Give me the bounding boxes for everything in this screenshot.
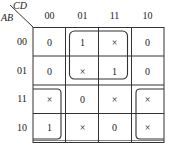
cell-r0-c3: 0 <box>131 28 164 56</box>
cell-r1-c3: 0 <box>131 57 164 85</box>
cell-r2-c2: × <box>98 85 131 113</box>
cell-r1-c1: × <box>66 57 99 85</box>
cell-r2-c3: × <box>131 85 164 113</box>
cell-r0-c0: 0 <box>33 28 66 56</box>
cell-r3-c3: × <box>131 113 164 141</box>
cell-r3-c1: × <box>66 113 99 141</box>
cell-r2-c1: 0 <box>66 85 99 113</box>
cell-r0-c2: × <box>98 28 131 56</box>
cell-r1-c0: 0 <box>33 57 66 85</box>
cell-r0-c1: 1 <box>66 28 99 56</box>
cell-r3-c0: 1 <box>33 113 66 141</box>
cell-r3-c2: 0 <box>98 113 131 141</box>
cell-r2-c0: × <box>33 85 66 113</box>
cell-r1-c2: 1 <box>98 57 131 85</box>
